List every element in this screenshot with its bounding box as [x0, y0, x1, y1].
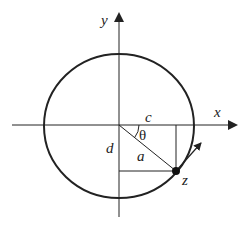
tangent-vector: [176, 143, 201, 171]
diagram-canvas: y x c θ d a z: [0, 0, 241, 227]
label-theta: θ: [139, 127, 146, 143]
label-y: y: [99, 12, 108, 28]
label-c: c: [145, 109, 152, 125]
radius-line: [119, 125, 176, 171]
label-x: x: [213, 104, 221, 120]
label-d: d: [106, 140, 114, 156]
label-a: a: [137, 148, 145, 164]
label-z: z: [181, 172, 188, 188]
point-z: [172, 167, 180, 175]
diagram-svg: y x c θ d a z: [0, 0, 241, 227]
